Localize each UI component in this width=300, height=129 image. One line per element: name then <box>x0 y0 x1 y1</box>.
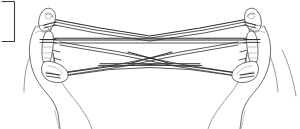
lower-string-band <box>56 64 244 77</box>
figure-border-fragment-icon <box>2 2 15 42</box>
line-art-canvas <box>0 0 300 129</box>
string-loop-over-fingers <box>40 22 260 78</box>
central-string-crossing <box>60 42 238 76</box>
left-hand <box>24 8 92 129</box>
string-figure-illustration: Two hands holding a string figure <box>0 0 300 129</box>
